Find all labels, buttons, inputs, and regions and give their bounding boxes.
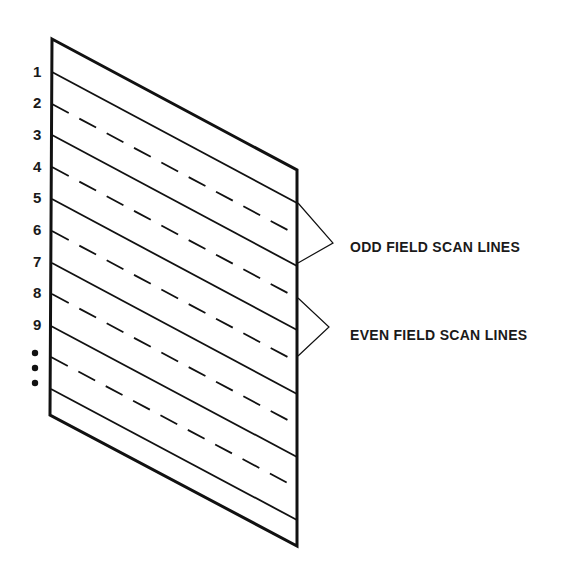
line-number-5: 5	[33, 189, 41, 206]
line-number-8: 8	[33, 284, 41, 301]
scan-line-11	[51, 389, 297, 520]
scan-line-9	[51, 326, 297, 457]
line-number-4: 4	[33, 158, 42, 175]
screen-frame	[50, 39, 297, 546]
line-number-labels: 1 2 3 4 5 6 7 8 9	[33, 63, 42, 333]
scan-line-6	[52, 231, 297, 362]
scan-line-8	[52, 294, 297, 425]
scan-line-5	[52, 199, 297, 330]
line-number-2: 2	[33, 94, 41, 111]
scan-line-3	[52, 135, 297, 266]
scan-lines	[51, 72, 297, 520]
line-number-6: 6	[33, 221, 41, 238]
line-number-1: 1	[33, 63, 41, 80]
even-field-label: EVEN FIELD SCAN LINES	[350, 327, 527, 343]
line-number-9: 9	[33, 316, 41, 333]
odd-field-label: ODD FIELD SCAN LINES	[350, 239, 520, 255]
scan-line-2	[52, 104, 297, 235]
scan-line-7	[52, 263, 297, 394]
scan-line-1	[52, 72, 297, 203]
ellipsis-dots-icon	[32, 350, 38, 386]
odd-field-bracket	[298, 203, 333, 263]
even-field-bracket	[298, 298, 329, 356]
line-number-3: 3	[33, 126, 41, 143]
line-number-7: 7	[33, 253, 41, 270]
scan-line-10	[51, 357, 297, 488]
scan-lines-diagram: 1 2 3 4 5 6 7 8 9 ODD FIELD SCAN LINES E…	[0, 0, 581, 570]
scan-line-4	[52, 167, 297, 298]
